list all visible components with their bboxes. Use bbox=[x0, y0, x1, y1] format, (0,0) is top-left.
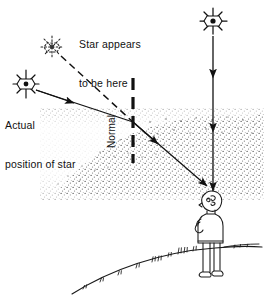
grass-tufts bbox=[83, 244, 248, 289]
label-actual-position-line2: position of star bbox=[5, 158, 76, 171]
overhead-star bbox=[200, 8, 227, 34]
apparent-star bbox=[41, 36, 63, 58]
label-actual-position-line1: Actual bbox=[5, 119, 76, 132]
label-normal: Normal bbox=[105, 115, 118, 148]
refraction-diagram: Star appears to be here Actual position … bbox=[0, 0, 264, 306]
observer-person bbox=[195, 191, 223, 277]
label-actual-position: Actual position of star bbox=[5, 93, 76, 197]
label-star-appears-line1: Star appears bbox=[79, 38, 141, 51]
earth-surface-curve bbox=[72, 244, 262, 294]
label-star-appears: Star appears to be here bbox=[79, 12, 141, 116]
label-star-appears-line2: to be here bbox=[79, 77, 141, 90]
